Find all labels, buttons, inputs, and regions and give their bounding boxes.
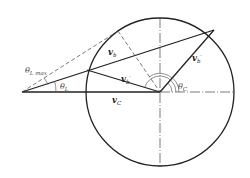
velocity-triangle-diagram: θL max θL θC vb vb′ vb′ vC xyxy=(0,0,250,178)
theta-l-arc xyxy=(55,81,57,92)
vector-long-line xyxy=(22,30,214,92)
theta-l-max-arc xyxy=(44,78,48,85)
tangent-dashed-line xyxy=(22,31,118,92)
label-v-b-prime-outer: vb′ xyxy=(192,53,202,64)
label-v-b: vb xyxy=(108,47,117,58)
label-v-c: vC xyxy=(112,95,122,106)
label-theta-l-max: θL max xyxy=(25,66,48,76)
label-theta-l: θL xyxy=(60,82,69,92)
label-theta-c: θC xyxy=(178,82,188,92)
theta-c-arc xyxy=(168,83,172,92)
